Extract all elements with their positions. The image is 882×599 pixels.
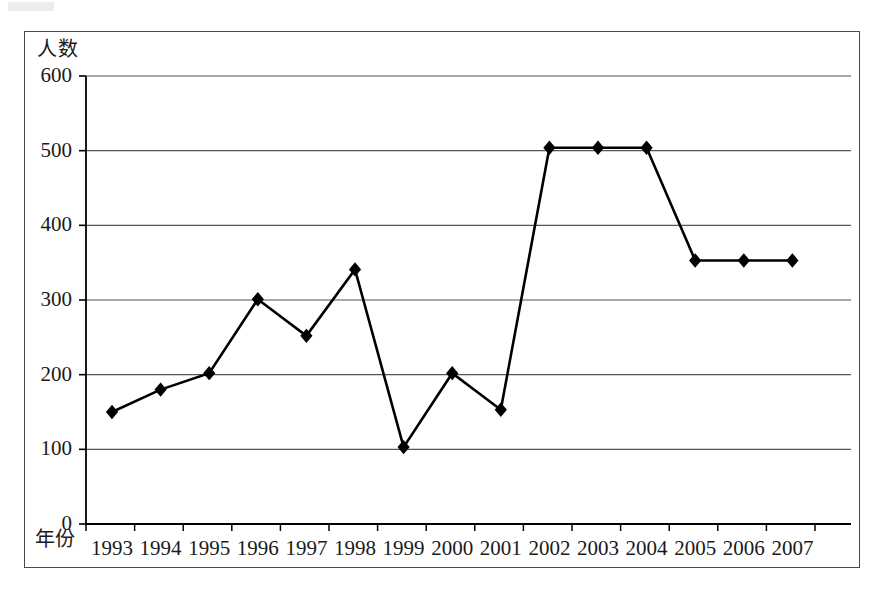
chart-page: 人数 年份 0100200300400500600 19931994199519… <box>0 0 882 599</box>
data-point-marker <box>738 253 750 267</box>
line-chart-canvas <box>25 32 861 569</box>
data-point-marker <box>106 405 118 419</box>
tick-marks-group <box>79 76 815 531</box>
data-series-line <box>112 148 792 447</box>
data-point-marker <box>495 403 507 417</box>
data-point-marker <box>543 140 555 154</box>
data-point-marker <box>640 140 652 154</box>
data-point-marker <box>786 253 798 267</box>
data-point-markers-group <box>106 140 799 454</box>
scan-artifact <box>8 2 54 11</box>
gridlines-group <box>86 76 851 524</box>
plot-area: 人数 年份 0100200300400500600 19931994199519… <box>25 32 861 569</box>
data-point-marker <box>592 140 604 154</box>
chart-frame: 人数 年份 0100200300400500600 19931994199519… <box>24 31 860 568</box>
data-point-marker <box>154 382 166 396</box>
data-point-marker <box>689 253 701 267</box>
